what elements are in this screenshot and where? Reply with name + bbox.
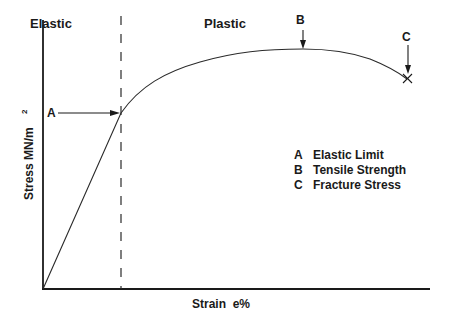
y-axis-title-main: Stress MN/m [22, 127, 36, 200]
region-label-elastic: Elastic [30, 16, 72, 31]
legend-label-b: Tensile Strength [313, 163, 406, 177]
marker-a-label: A [47, 106, 56, 120]
legend-key-a: A [294, 148, 303, 162]
legend-label-c: Fracture Stress [313, 178, 401, 192]
arrowhead-down-icon [405, 65, 411, 74]
legend-key-b: B [294, 163, 303, 177]
y-axis-title-superscript: 2 [20, 109, 29, 114]
x-axis-title: Strain e% [192, 297, 250, 311]
marker-b-label: B [296, 13, 305, 27]
legend: A Elastic Limit B Tensile Strength C Fra… [294, 148, 406, 192]
arrowhead-down-icon [300, 40, 306, 49]
arrowhead-right-icon [110, 110, 120, 116]
y-axis-title: Stress MN/m 2 [20, 109, 36, 200]
marker-c-label: C [402, 30, 411, 44]
region-label-plastic: Plastic [204, 16, 246, 31]
legend-label-a: Elastic Limit [313, 148, 384, 162]
stress-strain-diagram: Elastic Plastic A B C A Elastic Limit B … [0, 0, 449, 330]
fracture-x-mark-icon [403, 74, 412, 83]
legend-key-c: C [294, 178, 303, 192]
